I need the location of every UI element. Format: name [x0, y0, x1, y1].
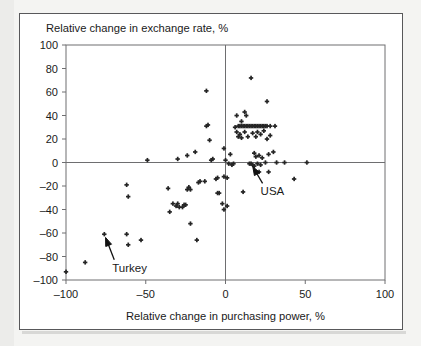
datapoint [265, 137, 269, 141]
datapoint [246, 134, 250, 138]
datapoint [102, 232, 106, 236]
datapoint [268, 124, 272, 128]
datapoint [255, 130, 259, 134]
y-tick-label: 80 [46, 63, 58, 75]
datapoint [266, 152, 270, 156]
datapoint [263, 160, 267, 164]
x-tick-label: 100 [376, 288, 394, 300]
annotation-arrowhead [253, 167, 260, 176]
datapoint [239, 119, 243, 123]
datapoint [188, 221, 192, 225]
annotation-label: USA [261, 185, 285, 197]
datapoint [249, 76, 253, 80]
datapoint [171, 201, 175, 205]
datapoint [166, 186, 170, 190]
datapoint [228, 152, 232, 156]
datapoint [195, 238, 199, 242]
datapoint [242, 130, 246, 134]
x-tick-label: –100 [54, 288, 78, 300]
datapoint [268, 133, 272, 137]
y-tick-label: –40 [40, 204, 58, 216]
datapoint [234, 113, 238, 117]
datapoint [83, 260, 87, 264]
datapoint [234, 130, 238, 134]
datapoint [139, 238, 143, 242]
x-axis-title: Relative change in purchasing power, % [126, 310, 325, 322]
datapoint [207, 138, 211, 142]
datapoint [292, 177, 296, 181]
y-tick-label: –60 [40, 227, 58, 239]
datapoint [254, 134, 258, 138]
y-axis-title: Relative change in exchange rate, % [46, 22, 228, 34]
datapoint [167, 210, 171, 214]
y-tick-label: 0 [52, 157, 58, 169]
y-tick-label: –80 [40, 251, 58, 263]
datapoint [175, 157, 179, 161]
x-tick-label: 50 [299, 288, 311, 300]
y-tick-label: 20 [46, 133, 58, 145]
y-tick-label: 60 [46, 86, 58, 98]
datapoint [193, 150, 197, 154]
datapoint [64, 270, 68, 274]
datapoint [305, 160, 309, 164]
figure-shadow [22, 331, 406, 334]
datapoint [145, 158, 149, 162]
datapoint [126, 194, 130, 198]
datapoint [273, 124, 277, 128]
datapoint [220, 201, 224, 205]
datapoint-group [64, 76, 309, 274]
datapoint [271, 150, 275, 154]
datapoint [274, 160, 278, 164]
annotation-label: Turkey [112, 262, 147, 274]
x-tick-label: 0 [222, 288, 228, 300]
datapoint [126, 243, 130, 247]
y-tick-label: 100 [40, 39, 58, 51]
datapoint [262, 129, 266, 133]
datapoint [223, 158, 227, 162]
scatter-chart: –100–80–60–40–20020406080100–100–5005010… [19, 13, 403, 330]
datapoint [124, 183, 128, 187]
datapoint [265, 99, 269, 103]
datapoint [204, 89, 208, 93]
datapoint [241, 190, 245, 194]
datapoint [282, 160, 286, 164]
y-tick-label: 40 [46, 110, 58, 122]
page-left-margin [0, 0, 14, 346]
datapoint [250, 131, 254, 135]
y-tick-label: –20 [40, 180, 58, 192]
annotation-arrowhead [106, 237, 112, 246]
y-tick-label: –100 [34, 274, 58, 286]
x-tick-label: –50 [137, 288, 155, 300]
datapoint [266, 170, 270, 174]
datapoint [124, 232, 128, 236]
annotation-turkey: Turkey [106, 237, 148, 273]
datapoint [185, 153, 189, 157]
datapoint [203, 179, 207, 183]
